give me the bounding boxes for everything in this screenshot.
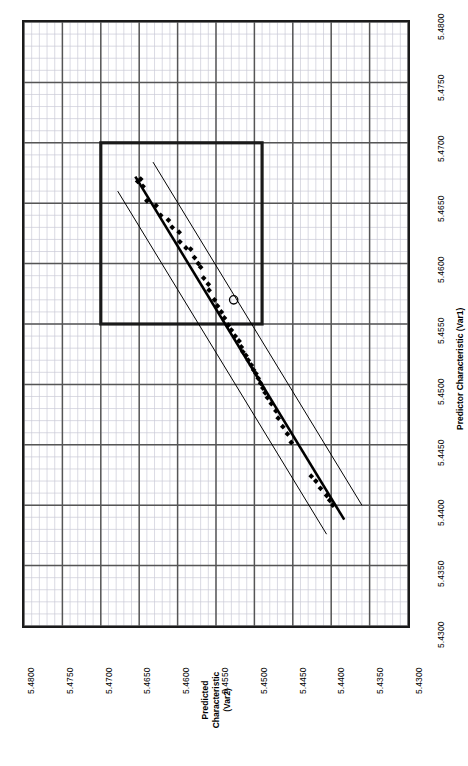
x-axis-tick-label: 5.4600	[436, 257, 446, 284]
x-axis-tick-label: 5.4400	[436, 500, 446, 527]
y-axis-tick-label: 5.4500	[259, 667, 269, 694]
x-axis-tick-label: 5.4300	[436, 621, 446, 648]
y-axis-tick-label: 5.4750	[65, 667, 75, 694]
data-point	[183, 245, 189, 251]
upper-band	[118, 191, 327, 534]
y-axis-tick-label: 5.4450	[298, 667, 308, 694]
data-point	[177, 239, 183, 245]
data-point	[188, 246, 194, 252]
data-point	[280, 424, 286, 430]
data-point	[308, 473, 314, 479]
plot-area	[22, 20, 410, 628]
x-axis-title: Predictor Characteristic (Var1)	[455, 308, 465, 430]
data-point	[192, 255, 198, 261]
x-axis-tick-label: 5.4800	[436, 13, 446, 40]
y-axis-tick-label: 5.4300	[414, 667, 424, 694]
lower-band	[153, 162, 362, 505]
specification-limits-box	[101, 143, 262, 324]
x-axis-tick-label: 5.4750	[436, 74, 446, 101]
y-axis-tick-label: 5.4400	[336, 667, 346, 694]
y-axis-tick-label: 5.4350	[375, 667, 385, 694]
y-axis-title-line: (Var2)	[222, 645, 233, 755]
x-axis-tick-label: 5.4700	[436, 135, 446, 162]
data-point	[176, 229, 182, 235]
y-axis-tick-label: 5.4800	[26, 667, 36, 694]
x-axis-tick-label: 5.4500	[436, 378, 446, 405]
scatter-chart: 5.48005.47505.47005.46505.46005.45505.45…	[0, 0, 468, 766]
data-point	[205, 281, 211, 287]
x-axis-tick-label: 5.4450	[436, 439, 446, 466]
x-axis-tick-label: 5.4550	[436, 317, 446, 344]
data-point	[201, 275, 207, 281]
data-point	[288, 440, 294, 446]
y-axis-title-line: Characteristic	[211, 645, 222, 755]
y-axis-tick-label: 5.4650	[142, 667, 152, 694]
data-point	[313, 478, 319, 484]
data-point	[166, 217, 172, 223]
data-point	[169, 224, 175, 230]
y-axis-tick-label: 5.4600	[181, 667, 191, 694]
y-axis-tick-label: 5.4700	[104, 667, 114, 694]
x-axis-tick-label: 5.4650	[436, 196, 446, 223]
x-axis-tick-label: 5.4350	[436, 561, 446, 588]
data-layer	[24, 22, 408, 626]
y-axis-title-line: Predicted	[200, 645, 211, 755]
y-axis-title: PredictedCharacteristic(Var2)	[200, 645, 233, 755]
